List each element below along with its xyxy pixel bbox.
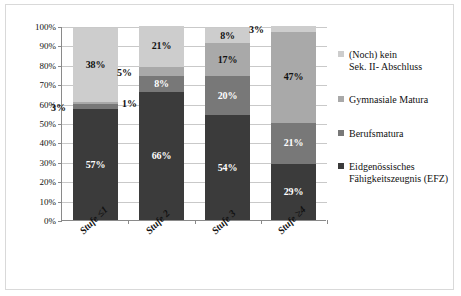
y-axis-tick-label: 0% xyxy=(44,217,56,226)
x-axis-tick xyxy=(195,220,196,224)
bar-column[interactable]: 54%20%17%8% xyxy=(205,28,250,220)
bar-segment[interactable] xyxy=(271,26,316,32)
bar-segment-value-label: 8% xyxy=(220,31,235,41)
y-axis-tick xyxy=(58,27,62,28)
legend-label-line: Sek. II- Abschluss xyxy=(349,61,422,73)
legend-label-line: Gymnasiale Matura xyxy=(349,94,428,106)
plot-area: 0%10%20%30%40%50%60%70%80%90%100%57%38%6… xyxy=(61,27,326,221)
chart-frame: 0%10%20%30%40%50%60%70%80%90%100%57%38%6… xyxy=(5,4,454,290)
legend-item-label: (Noch) keinSek. II- Abschluss xyxy=(349,49,422,72)
y-axis-tick-label: 30% xyxy=(40,158,57,167)
y-axis-tick xyxy=(58,182,62,183)
y-axis-tick-label: 10% xyxy=(40,197,57,206)
legend-item[interactable]: Berufsmatura xyxy=(338,128,458,140)
legend-label-line: (Noch) kein xyxy=(349,49,422,61)
legend-label-line: Berufsmatura xyxy=(349,128,403,140)
bar-column[interactable]: 66%8%21% xyxy=(139,26,184,220)
legend-item-label: Gymnasiale Matura xyxy=(349,94,428,106)
bar-segment-value-label: 21% xyxy=(284,138,303,148)
y-axis-tick-label: 50% xyxy=(40,120,57,129)
y-axis-tick-label: 20% xyxy=(40,178,57,187)
legend-color-swatch xyxy=(338,130,344,136)
bar-segment[interactable]: 21% xyxy=(139,26,184,67)
legend-color-swatch xyxy=(338,96,344,102)
legend-label-line: Eidgenössisches xyxy=(349,161,448,173)
bar-segment[interactable]: 66% xyxy=(139,92,184,220)
bar-segment[interactable] xyxy=(73,104,118,110)
chart-legend: (Noch) keinSek. II- AbschlussGymnasiale … xyxy=(338,49,458,206)
bar-segment[interactable]: 21% xyxy=(271,123,316,164)
legend-item[interactable]: Gymnasiale Matura xyxy=(338,94,458,106)
y-axis-tick xyxy=(58,124,62,125)
y-axis-tick-label: 80% xyxy=(40,61,57,70)
y-axis-tick-label: 100% xyxy=(35,23,56,32)
bar-segment-value-label: 66% xyxy=(152,151,171,161)
bar-segment[interactable]: 47% xyxy=(271,32,316,123)
x-axis-tick xyxy=(128,220,129,224)
y-axis-tick-label: 40% xyxy=(40,139,57,148)
legend-label-line: Fähigkeitszeugnis (EFZ) xyxy=(349,173,448,185)
bar-column[interactable]: 29%21%47% xyxy=(271,26,316,220)
bar-segment[interactable]: 57% xyxy=(73,109,118,220)
outside-data-label: 1% xyxy=(122,99,137,109)
outside-data-label: 3% xyxy=(249,25,264,35)
y-axis-tick xyxy=(58,66,62,67)
bar-segment[interactable]: 8% xyxy=(205,28,250,44)
bar-segment-value-label: 29% xyxy=(284,187,303,197)
bar-segment-value-label: 57% xyxy=(86,160,105,170)
bar-segment[interactable]: 54% xyxy=(205,115,250,220)
y-axis-tick-label: 90% xyxy=(40,42,57,51)
bar-segment[interactable]: 17% xyxy=(205,43,250,76)
outside-data-label: 5% xyxy=(117,68,132,78)
legend-color-swatch xyxy=(338,51,344,57)
legend-item[interactable]: (Noch) keinSek. II- Abschluss xyxy=(338,49,458,72)
bar-segment[interactable]: 38% xyxy=(73,28,118,102)
y-axis-tick xyxy=(58,163,62,164)
y-axis-tick-label: 70% xyxy=(40,81,57,90)
bar-segment-value-label: 17% xyxy=(218,55,237,65)
bar-segment-value-label: 21% xyxy=(152,41,171,51)
bar-segment-value-label: 20% xyxy=(218,91,237,101)
y-axis-tick xyxy=(58,143,62,144)
bar-segment-value-label: 8% xyxy=(154,79,169,89)
bar-segment[interactable] xyxy=(139,67,184,77)
x-axis-tick xyxy=(261,220,262,224)
y-axis-tick xyxy=(58,85,62,86)
bar-segment[interactable]: 20% xyxy=(205,76,250,115)
legend-item[interactable]: EidgenössischesFähigkeitszeugnis (EFZ) xyxy=(338,161,458,184)
legend-color-swatch xyxy=(338,163,344,169)
x-axis-tick xyxy=(327,220,328,224)
bar-segment[interactable] xyxy=(73,102,118,104)
outside-data-label: 3% xyxy=(51,103,66,113)
bar-column[interactable]: 57%38% xyxy=(73,28,118,220)
y-axis-tick xyxy=(58,221,62,222)
legend-item-label: EidgenössischesFähigkeitszeugnis (EFZ) xyxy=(349,161,448,184)
bar-segment[interactable]: 8% xyxy=(139,76,184,92)
bar-segment-value-label: 38% xyxy=(86,60,105,70)
y-axis-tick xyxy=(58,46,62,47)
legend-item-label: Berufsmatura xyxy=(349,128,403,140)
bar-segment-value-label: 47% xyxy=(284,72,303,82)
bar-segment-value-label: 54% xyxy=(218,163,237,173)
y-axis-tick xyxy=(58,202,62,203)
